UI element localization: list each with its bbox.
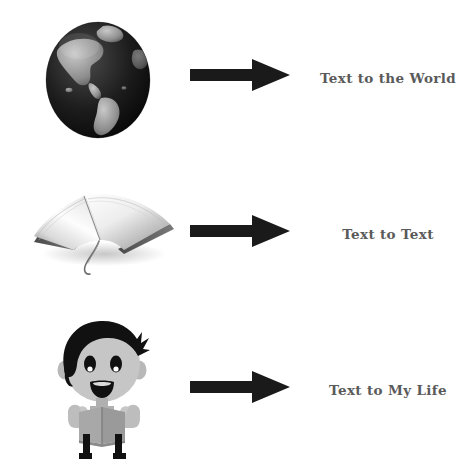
icon-cell-world <box>20 0 180 156</box>
open-book-icon <box>28 180 178 280</box>
diagram-row-text-to-my-life: Text to My Life <box>0 312 476 468</box>
diagram-row-text-to-text: Text to Text <box>0 156 476 312</box>
label-text-to-my-life: Text to My Life <box>329 382 447 398</box>
arrow-cell-text <box>190 214 300 254</box>
icon-cell-boy <box>20 312 180 468</box>
arrow-cell-life <box>190 370 300 410</box>
right-arrow-icon <box>190 58 290 92</box>
label-cell-world: Text to the World <box>300 0 476 156</box>
reading-boy-icon <box>46 312 162 462</box>
right-arrow-icon <box>190 370 290 404</box>
arrow-cell-world <box>190 58 300 98</box>
right-arrow-icon <box>190 214 290 248</box>
text-connections-diagram: Text to the World <box>0 0 476 469</box>
icon-cell-book <box>20 156 180 312</box>
globe-icon <box>45 20 151 140</box>
label-text-to-text: Text to Text <box>342 226 434 242</box>
label-cell-text: Text to Text <box>300 156 476 312</box>
diagram-row-text-to-world: Text to the World <box>0 0 476 156</box>
label-cell-life: Text to My Life <box>300 312 476 468</box>
label-text-to-world: Text to the World <box>320 70 456 86</box>
